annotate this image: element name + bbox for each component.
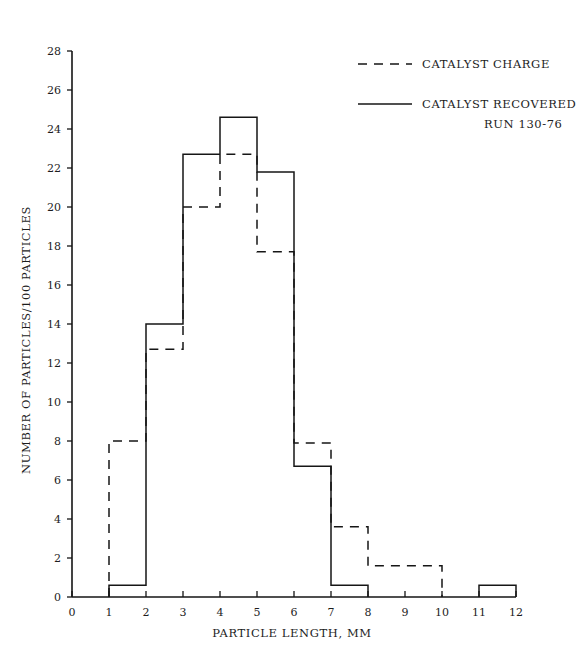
x-tick-label: 10 <box>435 606 449 619</box>
y-tick-label: 6 <box>54 474 61 487</box>
chart-legend: CATALYST CHARGE CATALYST RECOVERED RUN 1… <box>358 57 576 131</box>
x-axis-ticks: 0123456789101112 <box>69 591 524 619</box>
x-tick-label: 0 <box>69 606 76 619</box>
y-tick-label: 16 <box>47 279 61 292</box>
x-tick-label: 11 <box>472 606 486 619</box>
x-tick-label: 9 <box>402 606 409 619</box>
x-tick-label: 3 <box>180 606 187 619</box>
x-tick-label: 8 <box>365 606 372 619</box>
y-tick-label: 26 <box>47 84 61 97</box>
y-tick-label: 20 <box>47 201 61 214</box>
y-tick-label: 4 <box>54 513 61 526</box>
legend-label-run: RUN 130-76 <box>484 117 563 131</box>
histogram-chart: 0246810121416182022242628 01234567891011… <box>0 0 585 665</box>
x-tick-label: 5 <box>254 606 261 619</box>
x-tick-label: 4 <box>217 606 224 619</box>
y-tick-label: 18 <box>47 240 61 253</box>
y-axis-title: NUMBER OF PARTICLES/100 PARTICLES <box>19 206 33 474</box>
x-tick-label: 2 <box>143 606 150 619</box>
legend-label-catalyst-recovered: CATALYST RECOVERED <box>422 97 576 111</box>
y-tick-label: 12 <box>47 357 61 370</box>
series-catalyst-charge <box>109 154 442 597</box>
x-tick-label: 6 <box>291 606 298 619</box>
y-tick-label: 2 <box>54 552 61 565</box>
series-catalyst-recovered <box>109 117 516 597</box>
chart-figure: 0246810121416182022242628 01234567891011… <box>0 0 585 665</box>
y-tick-label: 10 <box>47 396 61 409</box>
x-tick-label: 12 <box>509 606 523 619</box>
y-tick-label: 24 <box>47 123 61 136</box>
y-tick-label: 8 <box>54 435 61 448</box>
y-tick-label: 28 <box>47 45 61 58</box>
legend-label-catalyst-charge: CATALYST CHARGE <box>422 57 550 71</box>
x-axis-title: PARTICLE LENGTH, MM <box>212 626 371 640</box>
y-tick-label: 14 <box>47 318 61 331</box>
y-axis-ticks: 0246810121416182022242628 <box>47 45 72 604</box>
x-tick-label: 7 <box>328 606 335 619</box>
y-tick-label: 0 <box>54 591 61 604</box>
y-tick-label: 22 <box>47 162 61 175</box>
x-tick-label: 1 <box>106 606 113 619</box>
